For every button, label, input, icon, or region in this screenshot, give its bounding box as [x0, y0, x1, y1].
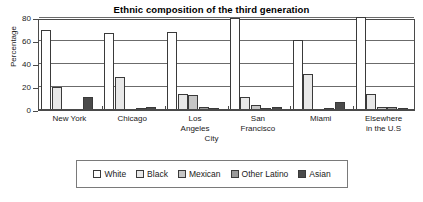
x-tick-label: SanFrancisco	[227, 114, 290, 134]
chart-title: Ethnic composition of the third generati…	[0, 4, 423, 15]
y-tick-label-20: 20	[7, 84, 31, 92]
bar-group	[290, 20, 353, 110]
legend-label: Other Latino	[242, 169, 289, 179]
legend-item-other-latino[interactable]: Other Latino	[231, 169, 289, 179]
legend-item-white[interactable]: White	[93, 169, 126, 179]
legend-label: Black	[147, 169, 168, 179]
bar-group	[39, 20, 102, 110]
bar-white	[104, 33, 114, 110]
bar-group	[102, 20, 165, 110]
chart-legend: WhiteBlackMexicanOther LatinoAsian	[76, 160, 348, 188]
y-tick-mark-0	[33, 111, 38, 112]
x-tick-label: Chicago	[101, 114, 164, 124]
x-tick-label: LosAngeles	[164, 114, 227, 134]
bar-white	[293, 40, 303, 110]
plot-area	[38, 19, 415, 111]
bar-white	[167, 32, 177, 110]
y-tick-label-60: 60	[7, 38, 31, 46]
y-tick-label-80: 80	[7, 15, 31, 23]
legend-swatch-icon	[178, 170, 186, 178]
x-tick-label: New York	[38, 114, 101, 124]
legend-swatch-icon	[93, 170, 101, 178]
bar-group	[165, 20, 228, 110]
bar-white	[356, 17, 366, 110]
bar-black	[303, 74, 313, 110]
legend-label: Asian	[309, 169, 330, 179]
legend-item-black[interactable]: Black	[136, 169, 168, 179]
bar-chart: Ethnic composition of the third generati…	[0, 0, 423, 202]
bar-mexican	[188, 95, 198, 110]
bar-black	[115, 77, 125, 110]
x-tick-label: Miami	[289, 114, 352, 124]
x-tick-label: Elsewherein the U.S	[352, 114, 415, 134]
bar-group	[353, 20, 416, 110]
bar-white	[230, 18, 240, 110]
legend-item-asian[interactable]: Asian	[298, 169, 330, 179]
bar-black	[366, 94, 376, 110]
x-axis-label: City	[0, 134, 423, 143]
bar-black	[52, 87, 62, 110]
y-tick-label-0: 0	[7, 107, 31, 115]
legend-swatch-icon	[231, 170, 239, 178]
legend-item-mexican[interactable]: Mexican	[178, 169, 221, 179]
axis-baseline	[39, 109, 414, 110]
legend-label: Mexican	[189, 169, 221, 179]
bar-group	[228, 20, 291, 110]
bar-black	[178, 94, 188, 110]
bar-white	[41, 30, 51, 111]
legend-label: White	[104, 169, 126, 179]
legend-swatch-icon	[298, 170, 306, 178]
y-tick-label-40: 40	[7, 61, 31, 69]
legend-swatch-icon	[136, 170, 144, 178]
